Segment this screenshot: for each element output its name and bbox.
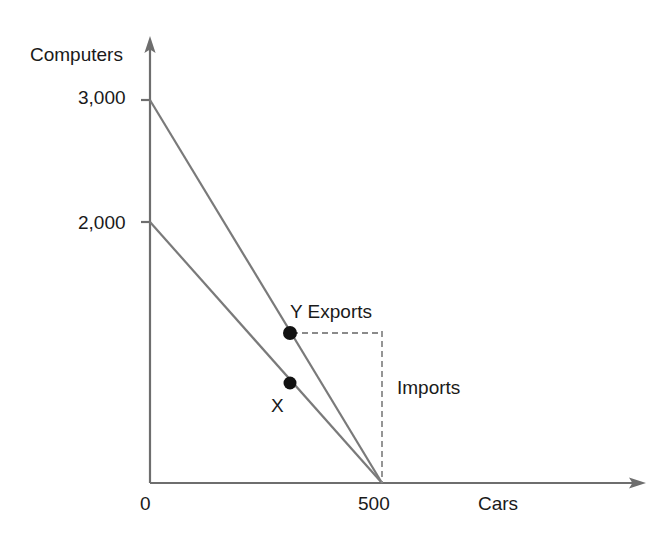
y-tick-label-2000: 2,000 xyxy=(78,213,126,232)
y-tick-label-3000: 3,000 xyxy=(78,88,126,107)
production-possibilities-frontier xyxy=(150,222,382,483)
data-point-x-marker xyxy=(284,377,297,390)
x-tick-label-0: 0 xyxy=(140,494,151,513)
data-point-y-exports-label: Y Exports xyxy=(290,302,372,321)
data-point-x-label: X xyxy=(271,396,284,415)
x-axis-title: Cars xyxy=(478,494,518,513)
y-axis-title: Computers xyxy=(30,45,123,64)
chart-canvas xyxy=(0,0,667,537)
consumption-possibilities-line xyxy=(150,100,382,483)
imports-region-label: Imports xyxy=(397,378,460,397)
x-tick-label-500: 500 xyxy=(358,494,390,513)
data-point-y-marker xyxy=(283,326,297,340)
trade-diagram-figure: Computers Cars 3,000 2,000 0 500 Y Expor… xyxy=(0,0,667,537)
